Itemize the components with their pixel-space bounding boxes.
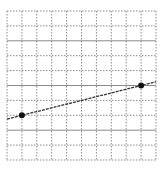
point-b [138,83,144,89]
coordinate-grid-figure [0,0,165,170]
point-a [19,112,25,118]
grid-lines [7,11,156,160]
